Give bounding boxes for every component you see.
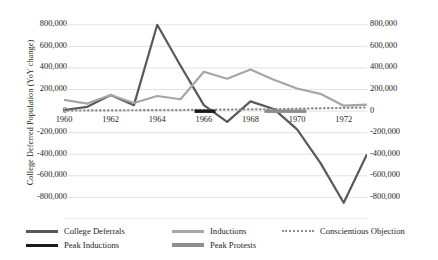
legend-swatch-icon (172, 230, 204, 233)
legend-item-inductions[interactable]: Inductions (172, 226, 246, 236)
legend-label: Peak Inductions (64, 240, 119, 250)
legend-swatch-icon (282, 230, 314, 232)
legend-item-conscientious-objection[interactable]: Conscientious Objection (282, 226, 405, 236)
legend-item-peak-inductions[interactable]: Peak Inductions (26, 240, 119, 250)
legend-item-peak-protests[interactable]: Peak Protests (172, 240, 256, 250)
y-axis-right-tick-label: 200,000 (370, 84, 397, 93)
y-axis-left-tick-label: -400,000 (37, 149, 67, 158)
legend-label: Conscientious Objection (320, 226, 405, 236)
legend-label: Inductions (210, 226, 246, 236)
y-axis-left-tick-label: 600,000 (40, 41, 67, 50)
y-axis-right-tick-label: -600,000 (370, 170, 400, 179)
legend-swatch-icon (26, 244, 58, 247)
legend-swatch-icon (26, 230, 58, 233)
y-axis-left-tick-label: 800,000 (40, 19, 67, 28)
y-axis-right-tick-label: 600,000 (370, 41, 397, 50)
annotation-bar-peak-protests (264, 110, 306, 113)
annotation-bar-peak-inductions (195, 110, 216, 113)
chart-legend: College DeferralsPeak InductionsInductio… (26, 226, 426, 258)
legend-swatch-icon (172, 243, 204, 247)
y-axis-left-tick-label: 400,000 (40, 62, 67, 71)
y-axis-left-tick-label: 200,000 (40, 84, 67, 93)
series-line-inductions (64, 70, 367, 106)
y-axis-right-tick-label: 0 (370, 106, 374, 115)
y-axis-right-tick-label: -400,000 (370, 149, 400, 158)
chart-container: College Deferred Population (YoY change)… (0, 0, 438, 260)
y-axis-left-tick-label: -600,000 (37, 170, 67, 179)
y-axis-right-tick-label: -200,000 (370, 127, 400, 136)
y-axis-left-tick-label: -200,000 (37, 127, 67, 136)
plot-svg (64, 14, 367, 219)
legend-item-college-deferrals[interactable]: College Deferrals (26, 226, 125, 236)
y-axis-right-tick-label: 400,000 (370, 62, 397, 71)
y-axis-right-tick-label: 800,000 (370, 19, 397, 28)
legend-label: College Deferrals (64, 226, 125, 236)
y-axis-left-tick-label: -800,000 (37, 192, 67, 201)
y-axis-left-title: College Deferred Population (YoY change) (26, 33, 35, 193)
legend-label: Peak Protests (210, 240, 256, 250)
plot-area (64, 14, 367, 219)
y-axis-right-tick-label: -800,000 (370, 192, 400, 201)
